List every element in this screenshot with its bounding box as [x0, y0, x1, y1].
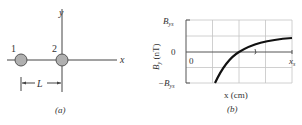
particle-2-icon — [56, 54, 68, 66]
x-axis-label: x — [119, 54, 125, 65]
particle-1-icon — [15, 54, 27, 66]
y-axis-label: y — [58, 7, 64, 18]
y-tick-bottom-label: −Bys — [158, 78, 175, 89]
figure-b-caption: (b) — [227, 104, 238, 114]
figure-a-caption: (a) — [55, 105, 66, 115]
particle-2-label: 2 — [52, 43, 57, 54]
data-curve — [215, 38, 292, 83]
x-tick-zero-label: 0 — [189, 56, 194, 66]
x-tick-end-label: xs — [288, 56, 296, 67]
figure-canvas: x y 1 2 L (a) — [0, 0, 302, 125]
figure-a: x y 1 2 L (a) — [7, 7, 125, 115]
x-axis-title: x (cm) — [224, 90, 248, 100]
y-axis-title: By (nT) — [151, 44, 162, 70]
arrow-left-icon — [22, 82, 26, 85]
separation-label: L — [36, 78, 43, 89]
y-tick-top-label: Bys — [163, 16, 174, 27]
figure-b: Bys 0 −Bys 0 xs By (nT) x (cm) (b) — [151, 16, 296, 114]
y-tick-zero-label: 0 — [171, 47, 176, 57]
particle-1-label: 1 — [11, 43, 16, 54]
arrow-right-icon — [57, 82, 61, 85]
